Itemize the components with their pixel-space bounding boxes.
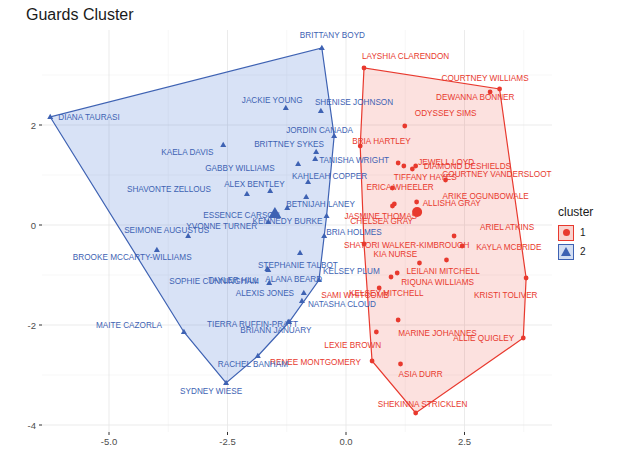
- circle-icon: [558, 225, 574, 241]
- point-label: SHEKINNA STRICKLEN: [378, 400, 468, 409]
- point-label: SAMI WHITCOMB: [321, 291, 389, 300]
- legend-label: 2: [580, 246, 586, 257]
- point-label: ALLISHA GRAY: [423, 199, 482, 208]
- legend-item-cluster-2: 2: [558, 242, 593, 261]
- legend-label: 1: [580, 227, 586, 238]
- point-label: JORDIN CANADA: [286, 126, 353, 135]
- triangle-icon: [558, 244, 574, 260]
- point-label: COURTNEY VANDERSLOOT: [442, 170, 551, 179]
- point-label: KENNEDY BURKE: [253, 217, 323, 226]
- scatter-plot: LAYSHIA CLARENDONCOURTNEY WILLIAMSDEWANN…: [0, 0, 624, 460]
- data-point: [389, 275, 394, 280]
- data-point: [362, 66, 367, 71]
- data-point: [410, 167, 415, 172]
- point-label: SEIMONE AUGUSTUS: [124, 226, 210, 235]
- point-label: RACHEL BANHAM: [218, 360, 288, 369]
- y-tick-label: -4: [28, 420, 36, 431]
- point-label: ASIA DURR: [399, 370, 443, 379]
- point-label: SOPHIE CUNNINGHAM: [169, 277, 259, 286]
- point-label: LAYSHIA CLARENDON: [362, 52, 449, 61]
- point-label: SHATORI WALKER-KIMBROUGH: [344, 241, 469, 250]
- point-label: GABBY WILLIAMS: [205, 164, 275, 173]
- y-tick-label: -2: [28, 320, 36, 331]
- point-label: JEWELL LOYD: [418, 158, 474, 167]
- point-label: COURTNEY WILLIAMS: [442, 74, 530, 83]
- point-label: BRIA HARTLEY: [352, 137, 411, 146]
- point-label: BROOKE MCCARTY-WILLIAMS: [73, 253, 192, 262]
- point-label: ARIEL ATKINS: [480, 223, 535, 232]
- point-label: KIA NURSE: [373, 250, 417, 259]
- data-point: [521, 336, 526, 341]
- point-label: LEXIE BROWN: [324, 341, 381, 350]
- point-label: BRIA HOLMES: [326, 228, 382, 237]
- data-point: [413, 411, 418, 416]
- point-label: MAITE CAZORLA: [96, 321, 163, 330]
- point-label: KELSEY PLUM: [323, 267, 380, 276]
- point-label: TANISHA WRIGHT: [319, 156, 389, 165]
- point-label: ALEX BENTLEY: [224, 180, 285, 189]
- data-point: [452, 234, 457, 239]
- y-tick-label: 0: [31, 220, 36, 231]
- point-label: KRISTI TOLIVER: [474, 291, 537, 300]
- point-label: BETNIJAH LANEY: [286, 200, 355, 209]
- point-label: JACKIE YOUNG: [242, 96, 303, 105]
- data-point: [401, 164, 406, 169]
- point-label: ALEXIS JONES: [236, 289, 295, 298]
- data-point: [319, 45, 325, 50]
- y-tick-label: 2: [31, 120, 36, 131]
- data-point: [395, 271, 400, 276]
- point-label: SHENISE JOHNSON: [315, 98, 393, 107]
- point-label: RIQUNA WILLIAMS: [401, 278, 474, 287]
- data-point: [444, 258, 449, 263]
- point-label: KAELA DAVIS: [161, 148, 214, 157]
- data-point: [402, 124, 407, 129]
- data-point: [396, 318, 401, 323]
- point-label: SHAVONTE ZELLOUS: [127, 185, 212, 194]
- point-label: ALLIE QUIGLEY: [453, 334, 515, 343]
- legend: cluster 1 2: [558, 205, 593, 261]
- point-label: BRIANN JANUARY: [240, 326, 312, 335]
- data-point: [392, 202, 397, 207]
- data-point: [370, 359, 375, 364]
- x-tick-label: 2.5: [458, 436, 471, 447]
- point-label: ODYSSEY SIMS: [415, 109, 477, 118]
- point-label: DEWANNA BONNER: [436, 93, 514, 102]
- data-point: [524, 276, 529, 281]
- point-label: ALANA BEARD: [265, 275, 322, 284]
- data-point: [417, 261, 422, 266]
- x-tick-label: -2.5: [219, 436, 235, 447]
- point-label: DIANA TAURASI: [58, 113, 120, 122]
- data-point: [414, 200, 419, 205]
- point-label: KAHLEAH COPPER: [292, 172, 367, 181]
- data-point: [398, 362, 403, 367]
- legend-item-cluster-1: 1: [558, 223, 593, 242]
- data-point: [396, 161, 401, 166]
- point-label: LEILANI MITCHELL: [406, 267, 480, 276]
- point-label: SYDNEY WIESE: [180, 387, 243, 396]
- point-label: KAYLA MCBRIDE: [476, 243, 542, 252]
- x-tick-label: -5.0: [101, 436, 117, 447]
- x-tick-label: 0.0: [339, 436, 352, 447]
- point-label: BRITTNEY SYKES: [254, 140, 324, 149]
- data-point: [497, 87, 502, 92]
- legend-title: cluster: [558, 205, 593, 219]
- point-label: ERICA WHEELER: [366, 183, 433, 192]
- point-label: BRITTANY BOYD: [300, 31, 365, 40]
- point-label: NATASHA CLOUD: [308, 300, 376, 309]
- data-point: [374, 330, 379, 335]
- point-label: CHELSEA GRAY: [350, 217, 413, 226]
